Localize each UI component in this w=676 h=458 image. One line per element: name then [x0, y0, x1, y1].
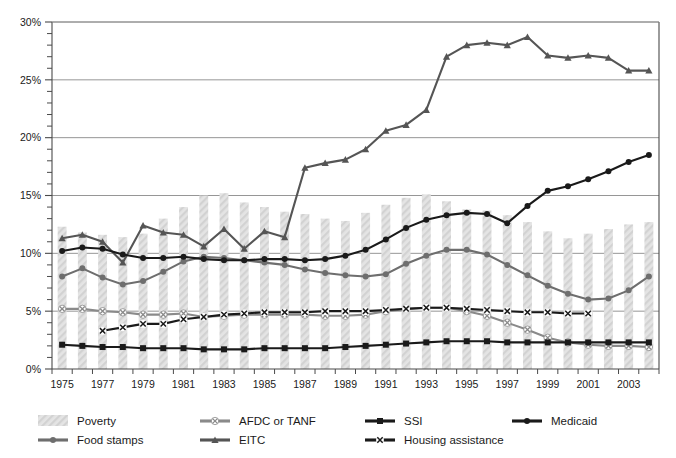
- data-point-marker: [241, 346, 247, 352]
- data-point-marker: [50, 437, 56, 443]
- x-axis-tick-label: 1997: [496, 378, 520, 390]
- series-line: [62, 37, 649, 263]
- data-point-marker: [79, 265, 85, 271]
- data-point-marker: [160, 255, 166, 261]
- data-point-marker: [201, 346, 207, 352]
- legend-label: SSI: [404, 415, 423, 427]
- legend-label: Food stamps: [77, 434, 144, 446]
- x-axis-tick-labels: 1975197719791981198319851987198919911993…: [50, 378, 640, 390]
- x-axis-tick-label: 2003: [617, 378, 641, 390]
- x-axis-tick-label: 1985: [253, 378, 277, 390]
- data-point-marker: [282, 256, 288, 262]
- data-point-marker: [444, 338, 450, 344]
- data-point-marker: [646, 339, 652, 345]
- data-point-marker: [241, 257, 247, 263]
- legend-item-afdc-or-tanf[interactable]: AFDC or TANF: [200, 415, 316, 427]
- data-point-marker: [181, 345, 187, 351]
- data-point-marker: [282, 262, 288, 268]
- series-line: [62, 341, 649, 349]
- legend-label: AFDC or TANF: [239, 415, 316, 427]
- data-point-marker: [140, 345, 146, 351]
- data-point-marker: [646, 152, 652, 158]
- data-point-marker: [282, 345, 288, 351]
- data-point-marker: [221, 346, 227, 352]
- poverty-bar: [462, 209, 471, 369]
- poverty-bar: [543, 231, 552, 369]
- data-point-marker: [423, 339, 429, 345]
- data-point-marker: [140, 255, 146, 261]
- data-point-marker: [646, 273, 652, 279]
- x-axis-tick-label: 1993: [415, 378, 439, 390]
- poverty-bar: [503, 215, 512, 369]
- legend-swatch-icon: [38, 415, 68, 426]
- data-point-marker: [423, 106, 430, 113]
- data-point-marker: [524, 203, 530, 209]
- data-point-marker: [160, 345, 166, 351]
- data-point-marker: [585, 176, 591, 182]
- chart-legend: PovertyAFDC or TANFSSIMedicaidFood stamp…: [38, 415, 597, 446]
- data-point-marker: [585, 339, 591, 345]
- data-point-marker: [626, 287, 632, 293]
- y-axis-ticks: [45, 22, 52, 369]
- data-point-marker: [100, 344, 106, 350]
- data-point-marker: [545, 339, 551, 345]
- data-point-marker: [140, 278, 146, 284]
- poverty-bar: [523, 222, 532, 369]
- data-point-marker: [605, 168, 611, 174]
- legend-item-poverty[interactable]: Poverty: [38, 415, 116, 427]
- data-point-marker: [524, 272, 530, 278]
- poverty-bar: [199, 196, 208, 370]
- data-point-marker: [524, 418, 530, 424]
- data-point-marker: [464, 338, 470, 344]
- y-axis-tick-label: 15%: [20, 189, 41, 201]
- x-axis-tick-label: 1987: [293, 378, 317, 390]
- data-point-marker: [383, 236, 389, 242]
- data-point-marker: [444, 212, 450, 218]
- legend-item-medicaid[interactable]: Medicaid: [512, 415, 597, 427]
- data-point-marker: [261, 256, 267, 262]
- data-point-marker: [626, 339, 632, 345]
- poverty-bar: [240, 202, 249, 369]
- data-point-marker: [120, 344, 126, 350]
- data-point-marker: [403, 261, 409, 267]
- y-axis-tick-label: 20%: [20, 131, 41, 143]
- series-line: [62, 155, 649, 260]
- x-axis-tick-label: 1995: [455, 378, 479, 390]
- y-axis-tick-labels: 0%5%10%15%20%25%30%: [20, 16, 41, 375]
- data-point-marker: [342, 253, 348, 259]
- legend-item-food-stamps[interactable]: Food stamps: [38, 434, 144, 446]
- legend-item-housing-assistance[interactable]: Housing assistance: [365, 434, 504, 446]
- legend-item-ssi[interactable]: SSI: [365, 415, 423, 427]
- x-axis-tick-label: 1991: [374, 378, 398, 390]
- data-point-marker: [545, 283, 551, 289]
- data-point-marker: [302, 257, 308, 263]
- percent-of-population-line-chart: 0%5%10%15%20%25%30% 19751977197919811983…: [0, 0, 676, 458]
- data-point-marker: [363, 273, 369, 279]
- data-point-marker: [59, 248, 65, 254]
- data-point-marker: [322, 270, 328, 276]
- data-point-marker: [160, 269, 166, 275]
- poverty-bar: [564, 238, 573, 369]
- data-point-marker: [484, 338, 490, 344]
- data-point-marker: [504, 339, 510, 345]
- data-point-marker: [181, 254, 187, 260]
- series-medicaid: [59, 152, 652, 263]
- data-point-marker: [302, 345, 308, 351]
- data-point-marker: [120, 251, 126, 257]
- legend-item-eitc[interactable]: EITC: [200, 434, 265, 446]
- data-point-marker: [403, 225, 409, 231]
- y-axis-tick-label: 5%: [26, 305, 41, 317]
- x-axis-ticks: [52, 369, 659, 374]
- data-point-marker: [322, 345, 328, 351]
- data-point-marker: [524, 33, 531, 40]
- poverty-bar: [483, 211, 492, 369]
- data-point-marker: [79, 245, 85, 251]
- data-point-marker: [302, 267, 308, 273]
- data-point-marker: [565, 183, 571, 189]
- data-point-marker: [464, 210, 470, 216]
- data-point-marker: [139, 222, 146, 229]
- data-point-marker: [464, 247, 470, 253]
- data-point-marker: [201, 256, 207, 262]
- series-food-stamps: [59, 247, 652, 303]
- data-point-marker: [605, 339, 611, 345]
